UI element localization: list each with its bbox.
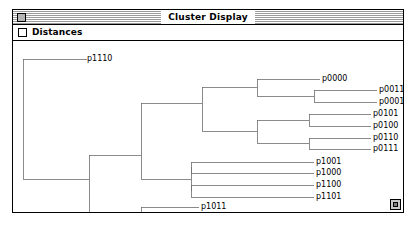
- leaf-label-p0101: p0101: [373, 109, 398, 118]
- distances-checkbox[interactable]: [18, 28, 27, 37]
- leaf-label-p1101: p1101: [316, 192, 341, 201]
- window-titlebar[interactable]: Cluster Display: [13, 10, 403, 25]
- leaf-label-p0111: p0111: [373, 144, 398, 153]
- titlebar-title-wrap: Cluster Display: [13, 10, 403, 24]
- dendrogram-plot: [13, 41, 403, 212]
- leaf-label-p1000: p1000: [316, 168, 341, 177]
- dendrogram-canvas[interactable]: p1110p0000p0011p0001p0101p0100p0110p0111…: [13, 41, 403, 212]
- leaf-label-p1100: p1100: [316, 180, 341, 189]
- distances-label: Distances: [32, 27, 82, 38]
- leaf-label-p1110: p1110: [87, 54, 112, 63]
- cluster-display-window: Cluster Display Distances p1110p0000p001…: [12, 9, 404, 213]
- window-toolbar: Distances: [13, 25, 403, 41]
- leaf-label-p1001: p1001: [316, 157, 341, 166]
- window-title: Cluster Display: [161, 11, 255, 24]
- leaf-label-p0001: p0001: [379, 97, 403, 106]
- leaf-label-p0100: p0100: [373, 121, 398, 130]
- leaf-label-p1011: p1011: [201, 202, 226, 211]
- grow-box-icon[interactable]: [390, 199, 401, 210]
- leaf-label-p0011: p0011: [379, 85, 403, 94]
- leaf-label-p0000: p0000: [322, 74, 347, 83]
- leaf-label-p0110: p0110: [373, 133, 398, 142]
